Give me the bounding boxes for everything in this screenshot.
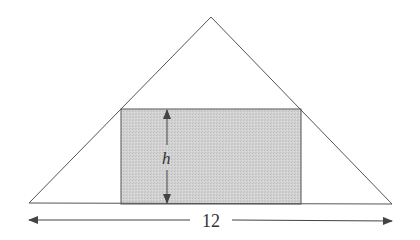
inscribed-rectangle (121, 109, 301, 204)
width-label: 12 (202, 211, 220, 231)
diagram-canvas: h 12 (0, 0, 420, 240)
width-dimension: 12 (29, 211, 392, 231)
height-label: h (162, 149, 171, 168)
width-arrow-right (232, 220, 392, 221)
